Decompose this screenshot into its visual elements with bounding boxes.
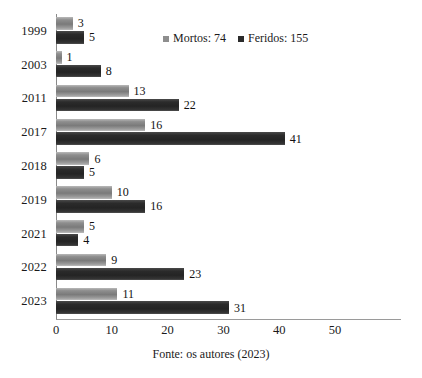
y-axis-category-label: 2021: [21, 226, 47, 241]
bar-value-label: 16: [150, 117, 162, 132]
y-axis-category-label: 2019: [21, 192, 47, 207]
bar-value-label: 22: [184, 97, 196, 112]
bar-track-feridos: 41: [56, 132, 335, 145]
y-axis-category-label: 2003: [21, 57, 47, 72]
bar-track-feridos: 5: [56, 166, 335, 179]
chart-category-row: 201865: [56, 149, 335, 183]
legend-entry[interactable]: Feridos: 155: [238, 31, 308, 46]
square-marker-dark-icon: [238, 36, 244, 42]
legend-label: Mortos: 74: [173, 31, 226, 46]
x-axis-tick-label: 20: [161, 323, 174, 338]
x-axis-tick-label: 40: [273, 323, 286, 338]
bar-track-feridos: 8: [56, 65, 335, 78]
bar-mortos[interactable]: [56, 220, 84, 233]
legend-entry[interactable]: Mortos: 74: [163, 31, 226, 46]
bar-value-label: 4: [83, 233, 89, 248]
bar-mortos[interactable]: [56, 85, 129, 98]
bar-track-mortos: 11: [56, 288, 335, 301]
bar-value-label: 5: [89, 165, 95, 180]
bar-value-label: 1: [67, 50, 73, 65]
chart-category-row: 2022923: [56, 251, 335, 285]
bar-track-mortos: 10: [56, 186, 335, 199]
bar-mortos[interactable]: [56, 152, 89, 165]
bar-track-feridos: 31: [56, 301, 335, 314]
bar-value-label: 31: [234, 300, 246, 315]
y-axis-category-label: 2017: [21, 125, 47, 140]
source-caption: Fonte: os autores (2023): [0, 347, 422, 362]
bar-track-mortos: 9: [56, 254, 335, 267]
bar-value-label: 6: [94, 151, 100, 166]
plot-area: 1999352003182011132220171641201865201910…: [56, 14, 335, 319]
bar-feridos[interactable]: [56, 166, 84, 179]
bar-track-mortos: 1: [56, 51, 335, 64]
bar-feridos[interactable]: [56, 200, 145, 213]
bar-track-feridos: 4: [56, 234, 335, 247]
bar-feridos[interactable]: [56, 99, 179, 112]
bar-mortos[interactable]: [56, 288, 117, 301]
x-axis-tick-label: 0: [53, 323, 59, 338]
bar-feridos[interactable]: [56, 268, 184, 281]
y-axis-category-label: 2018: [21, 159, 47, 174]
chart-category-row: 20231131: [56, 284, 335, 318]
bar-value-label: 3: [78, 16, 84, 31]
bar-track-feridos: 23: [56, 268, 335, 281]
x-axis-line: [56, 319, 401, 320]
bar-chart-figure: 1999352003182011132220171641201865201910…: [0, 0, 422, 378]
x-axis-tick-label: 50: [329, 323, 342, 338]
bar-feridos[interactable]: [56, 234, 78, 247]
chart-category-row: 20191016: [56, 183, 335, 217]
bar-track-feridos: 16: [56, 200, 335, 213]
bar-value-label: 23: [189, 266, 201, 281]
chart-category-row: 20171641: [56, 115, 335, 149]
bar-mortos[interactable]: [56, 254, 106, 267]
x-axis-tick-label: 30: [217, 323, 230, 338]
bar-feridos[interactable]: [56, 132, 285, 145]
bar-value-label: 10: [117, 185, 129, 200]
bar-track-mortos: 13: [56, 85, 335, 98]
bar-value-label: 5: [89, 219, 95, 234]
bar-track-mortos: 3: [56, 17, 335, 30]
bar-value-label: 8: [106, 64, 112, 79]
bar-feridos[interactable]: [56, 31, 84, 44]
chart-category-row: 200318: [56, 48, 335, 82]
bar-track-mortos: 6: [56, 152, 335, 165]
legend-label: Feridos: 155: [248, 31, 308, 46]
bar-track-mortos: 5: [56, 220, 335, 233]
x-axis-tick-label: 10: [106, 323, 119, 338]
bar-value-label: 5: [89, 30, 95, 45]
chart-category-row: 202154: [56, 217, 335, 251]
bar-feridos[interactable]: [56, 65, 101, 78]
bar-feridos[interactable]: [56, 301, 229, 314]
x-axis-tick-labels: 01020304050: [56, 323, 335, 341]
bar-value-label: 11: [122, 286, 134, 301]
bar-value-label: 16: [150, 199, 162, 214]
chart-category-row: 20111322: [56, 82, 335, 116]
bar-mortos[interactable]: [56, 17, 73, 30]
y-axis-category-label: 2011: [22, 91, 47, 106]
bar-value-label: 9: [111, 253, 117, 268]
bar-track-mortos: 16: [56, 119, 335, 132]
bar-mortos[interactable]: [56, 186, 112, 199]
chart-legend: Mortos: 74Feridos: 155: [163, 31, 308, 46]
bar-value-label: 13: [134, 84, 146, 99]
y-axis-category-label: 2022: [21, 260, 47, 275]
bar-mortos[interactable]: [56, 119, 145, 132]
y-axis-category-label: 2023: [21, 294, 47, 309]
square-marker-light-icon: [163, 36, 169, 42]
bar-track-feridos: 22: [56, 99, 335, 112]
bar-mortos[interactable]: [56, 51, 62, 64]
bar-value-label: 41: [290, 131, 302, 146]
y-axis-category-label: 1999: [21, 23, 47, 38]
